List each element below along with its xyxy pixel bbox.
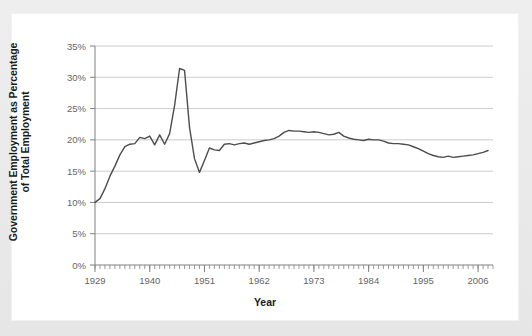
y-tick-marks: [90, 46, 95, 265]
x-tick-label: 1995: [413, 275, 434, 286]
y-tick-label: 25%: [67, 103, 87, 114]
x-tick-label: 2006: [468, 275, 489, 286]
y-tick-label: 35%: [67, 41, 87, 52]
y-tick-label: 30%: [67, 72, 87, 83]
data-series-line: [95, 69, 488, 203]
y-tick-labels: 0%5%10%15%20%25%30%35%: [67, 41, 87, 271]
x-tick-label: 1940: [139, 275, 160, 286]
y-tick-label: 10%: [67, 197, 87, 208]
chart-panel: 0%5%10%15%20%25%30%35% 19291940195119621…: [12, 14, 518, 320]
y-tick-label: 15%: [67, 166, 87, 177]
x-tick-label: 1929: [84, 275, 105, 286]
x-tick-label: 1984: [358, 275, 379, 286]
y-tick-label: 20%: [67, 134, 87, 145]
x-tick-label: 1973: [303, 275, 324, 286]
x-tick-label: 1951: [194, 275, 215, 286]
x-minor-tick-marks: [95, 265, 493, 269]
gridlines: [95, 46, 493, 234]
x-axis-title: Year: [12, 296, 518, 308]
y-tick-label: 0%: [72, 260, 86, 271]
x-tick-label: 1962: [249, 275, 270, 286]
x-tick-labels: 19291940195119621973198419952006: [84, 275, 488, 286]
chart-area: 0%5%10%15%20%25%30%35% 19291940195119621…: [12, 14, 518, 320]
x-major-tick-marks: [95, 265, 478, 272]
figure-root: 0%5%10%15%20%25%30%35% 19291940195119621…: [0, 0, 532, 336]
y-tick-label: 5%: [72, 228, 86, 239]
line-chart: 0%5%10%15%20%25%30%35% 19291940195119621…: [12, 14, 518, 320]
